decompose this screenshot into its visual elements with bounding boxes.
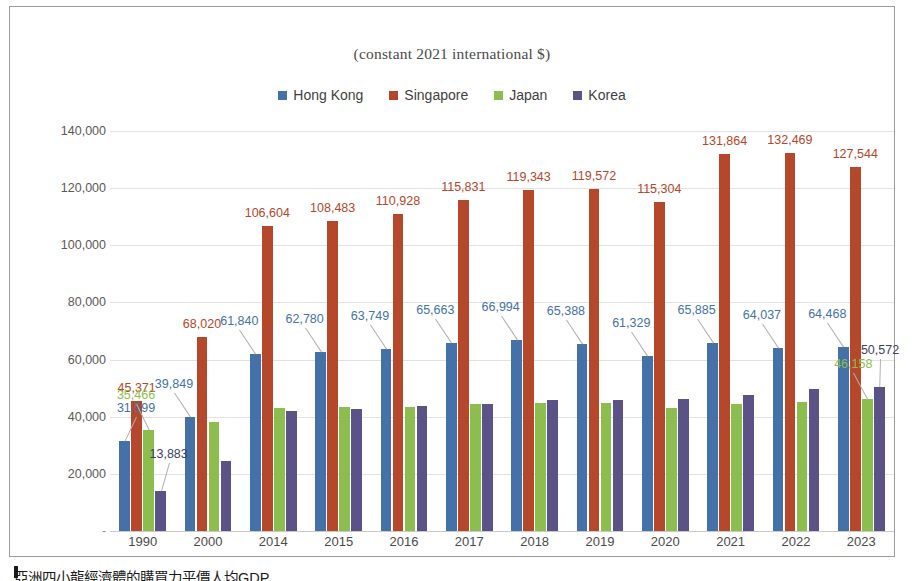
bar-fill	[250, 354, 261, 531]
x-tick-label: 1990	[110, 534, 175, 560]
chart-title: (constant 2021 international $)	[10, 45, 894, 63]
bar-hong-kong[interactable]	[315, 352, 326, 531]
bar-korea[interactable]	[155, 491, 166, 531]
bar-hong-kong[interactable]	[119, 441, 130, 531]
bar-singapore[interactable]	[785, 153, 796, 531]
y-axis-labels: -20,00040,00060,00080,000100,000120,0001…	[44, 131, 106, 531]
bar-fill	[654, 202, 665, 531]
bar-group	[763, 131, 828, 531]
legend-swatch-icon	[494, 91, 503, 100]
bar-fill	[315, 352, 326, 531]
bar-japan[interactable]	[209, 422, 220, 531]
bar-fill	[262, 226, 273, 531]
bar-singapore[interactable]	[589, 189, 600, 531]
bar-singapore[interactable]	[850, 167, 861, 531]
bar-fill	[601, 403, 612, 531]
x-tick-label: 2014	[241, 534, 306, 560]
bar-hong-kong[interactable]	[707, 343, 718, 531]
data-label: 65,388	[547, 304, 585, 318]
data-label: 13,883	[150, 447, 188, 461]
bar-fill	[393, 214, 404, 531]
data-label: 108,483	[310, 201, 355, 215]
legend-label: Japan	[509, 87, 547, 103]
bar-fill	[511, 340, 522, 531]
bar-fill	[458, 200, 469, 531]
bar-korea[interactable]	[874, 387, 885, 531]
y-tick-label: 120,000	[61, 181, 106, 195]
bar-japan[interactable]	[797, 402, 808, 531]
bar-fill	[221, 461, 232, 531]
legend-swatch-icon	[389, 91, 398, 100]
bar-korea[interactable]	[286, 411, 297, 531]
bar-japan[interactable]	[470, 404, 481, 531]
bar-korea[interactable]	[547, 400, 558, 531]
bar-group	[306, 131, 371, 531]
x-tick-label: 2020	[633, 534, 698, 560]
bar-japan[interactable]	[535, 403, 546, 531]
bar-japan[interactable]	[862, 399, 873, 531]
data-label: 62,780	[286, 312, 324, 326]
plot-area: 31,59945,37135,46613,88339,84968,02061,8…	[110, 131, 894, 531]
bar-fill	[119, 441, 130, 531]
bar-singapore[interactable]	[654, 202, 665, 531]
bar-fill	[381, 349, 392, 531]
legend-swatch-icon	[573, 91, 582, 100]
bar-korea[interactable]	[743, 395, 754, 531]
bar-hong-kong[interactable]	[577, 344, 588, 531]
bar-fill	[773, 348, 784, 531]
bar-fill	[589, 189, 600, 531]
bar-group	[175, 131, 240, 531]
bar-korea[interactable]	[351, 409, 362, 531]
bar-korea[interactable]	[221, 461, 232, 531]
bar-hong-kong[interactable]	[185, 417, 196, 531]
data-label: 110,928	[376, 194, 420, 208]
x-tick-label: 2021	[698, 534, 763, 560]
data-label: 46,158	[834, 357, 872, 371]
bar-japan[interactable]	[601, 403, 612, 531]
bar-fill	[678, 399, 689, 531]
bar-japan[interactable]	[339, 407, 350, 531]
bar-hong-kong[interactable]	[250, 354, 261, 531]
legend-item-hong-kong[interactable]: Hong Kong	[278, 87, 363, 103]
x-tick-label: 2015	[306, 534, 371, 560]
legend-item-singapore[interactable]: Singapore	[389, 87, 468, 103]
x-tick-label: 2018	[502, 534, 567, 560]
y-tick-label: 20,000	[68, 467, 106, 481]
bar-hong-kong[interactable]	[511, 340, 522, 531]
bar-fill	[339, 407, 350, 531]
bar-korea[interactable]	[417, 406, 428, 531]
bar-hong-kong[interactable]	[773, 348, 784, 531]
bar-singapore[interactable]	[393, 214, 404, 531]
bar-singapore[interactable]	[262, 226, 273, 531]
bar-japan[interactable]	[731, 404, 742, 531]
bar-korea[interactable]	[613, 400, 624, 531]
bar-japan[interactable]	[143, 430, 154, 531]
bar-fill	[874, 387, 885, 531]
bar-singapore[interactable]	[197, 337, 208, 531]
bar-hong-kong[interactable]	[838, 347, 849, 531]
bar-korea[interactable]	[678, 399, 689, 531]
bar-korea[interactable]	[482, 404, 493, 531]
bar-japan[interactable]	[666, 408, 677, 531]
bar-singapore[interactable]	[719, 154, 730, 531]
legend-item-korea[interactable]: Korea	[573, 87, 625, 103]
bar-hong-kong[interactable]	[642, 356, 653, 531]
legend-label: Korea	[588, 87, 625, 103]
bar-fill	[274, 408, 285, 531]
bar-japan[interactable]	[274, 408, 285, 531]
bar-singapore[interactable]	[458, 200, 469, 531]
bar-korea[interactable]	[809, 389, 820, 531]
data-label: 131,864	[702, 134, 747, 148]
bar-hong-kong[interactable]	[446, 343, 457, 531]
bar-singapore[interactable]	[327, 221, 338, 531]
bar-hong-kong[interactable]	[381, 349, 392, 531]
x-axis-labels: 1990200020142015201620172018201920202021…	[110, 534, 894, 560]
chart-legend: Hong KongSingaporeJapanKorea	[10, 87, 894, 103]
bar-singapore[interactable]	[523, 190, 534, 531]
bar-fill	[209, 422, 220, 531]
bar-japan[interactable]	[405, 407, 416, 531]
y-tick-label: 40,000	[68, 410, 106, 424]
legend-item-japan[interactable]: Japan	[494, 87, 547, 103]
data-label: 68,020	[183, 317, 221, 331]
data-label: 39,849	[155, 377, 193, 391]
